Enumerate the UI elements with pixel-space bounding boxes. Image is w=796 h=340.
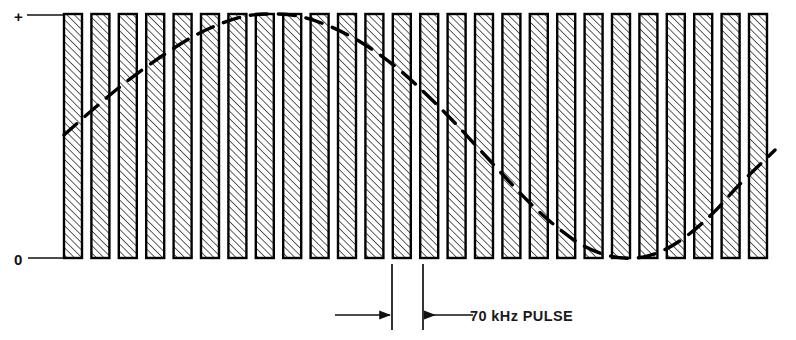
pulse-bar <box>448 14 466 258</box>
pulse-bar <box>311 14 329 258</box>
pulse-bar <box>201 14 219 258</box>
pulse-bar <box>639 14 657 258</box>
pulse-train-bars <box>64 14 767 258</box>
pulse-bar <box>694 14 712 258</box>
pulse-bar <box>722 14 740 258</box>
axis-label-zero: 0 <box>14 251 22 268</box>
pulse-bar <box>91 14 109 258</box>
pulse-bar <box>502 14 520 258</box>
pulse-bar <box>256 14 274 258</box>
pulse-bar <box>530 14 548 258</box>
pulse-bar <box>667 14 685 258</box>
pulse-bar <box>585 14 603 258</box>
pulse-bar <box>228 14 246 258</box>
pulse-bar <box>119 14 137 258</box>
pulse-bar <box>393 14 411 258</box>
pulse-dimension-annotation: 70 kHz PULSE <box>335 264 573 330</box>
pulse-bar <box>612 14 630 258</box>
pulse-bar <box>365 14 383 258</box>
pulse-bar <box>475 14 493 258</box>
pulse-waveform-figure: + 0 70 kHz PULSE <box>0 0 796 340</box>
pulse-label: 70 kHz PULSE <box>470 308 573 324</box>
pulse-bar <box>749 14 767 258</box>
pulse-bar <box>420 14 438 258</box>
axis-group: + 0 <box>14 8 63 268</box>
pulse-bar <box>338 14 356 258</box>
waveform-diagram-canvas: + 0 70 kHz PULSE <box>0 0 796 340</box>
pulse-bar <box>283 14 301 258</box>
axis-label-plus: + <box>14 8 23 25</box>
pulse-bar <box>174 14 192 258</box>
pulse-bar <box>64 14 82 258</box>
pulse-bar <box>146 14 164 258</box>
pulse-bar <box>557 14 575 258</box>
